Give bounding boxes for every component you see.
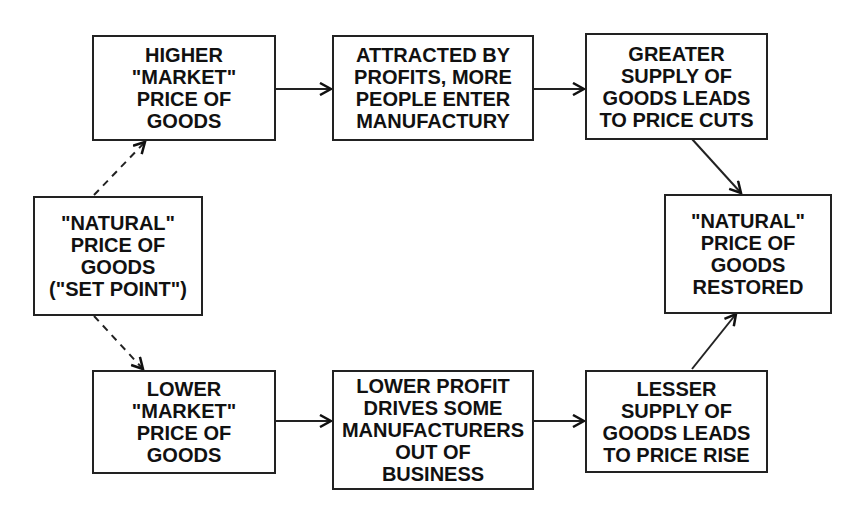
node-line: PROFITS, MORE xyxy=(354,66,512,88)
node-line: "NATURAL" xyxy=(61,212,175,234)
node-line: "NATURAL" xyxy=(691,210,805,232)
node-line: GOODS xyxy=(147,444,221,466)
node-attracted-by-profits: ATTRACTED BY PROFITS, MORE PEOPLE ENTER … xyxy=(332,35,534,141)
node-line: HIGHER xyxy=(145,44,223,66)
node-line: LESSER xyxy=(636,378,716,400)
node-line: LOWER xyxy=(147,378,221,400)
node-line: PRICE OF xyxy=(71,234,165,256)
node-line: PRICE OF xyxy=(137,88,231,110)
node-line: GOODS LEADS xyxy=(603,422,751,444)
node-higher-market-price: HIGHER "MARKET" PRICE OF GOODS xyxy=(92,35,276,141)
node-lesser-supply: LESSER SUPPLY OF GOODS LEADS TO PRICE RI… xyxy=(585,370,768,473)
node-line: ("SET POINT") xyxy=(49,278,187,300)
node-line: "MARKET" xyxy=(132,66,237,88)
node-line: SUPPLY OF xyxy=(621,65,732,87)
arrow-lesser-to-restored xyxy=(692,314,736,369)
node-line: BUSINESS xyxy=(382,463,484,485)
node-line: PRICE OF xyxy=(137,422,231,444)
arrow-natural-to-higher xyxy=(94,142,145,195)
node-line: SUPPLY OF xyxy=(621,400,732,422)
node-line: PRICE OF xyxy=(701,232,795,254)
arrow-greater-to-restored xyxy=(692,139,741,193)
node-greater-supply: GREATER SUPPLY OF GOODS LEADS TO PRICE C… xyxy=(585,33,768,140)
node-line: OUT OF xyxy=(395,441,471,463)
node-natural-price-set-point: "NATURAL" PRICE OF GOODS ("SET POINT") xyxy=(33,196,203,316)
node-line: "MARKET" xyxy=(132,400,237,422)
node-line: GOODS xyxy=(81,256,155,278)
node-lower-profit: LOWER PROFIT DRIVES SOME MANUFACTURERS O… xyxy=(332,370,534,490)
node-line: MANUFACTURERS xyxy=(342,419,524,441)
node-line: TO PRICE CUTS xyxy=(599,109,753,131)
node-line: LOWER PROFIT xyxy=(356,375,509,397)
node-line: ATTRACTED BY xyxy=(356,44,510,66)
node-line: GOODS xyxy=(711,254,785,276)
node-line: PEOPLE ENTER xyxy=(356,88,510,110)
node-lower-market-price: LOWER "MARKET" PRICE OF GOODS xyxy=(92,370,276,474)
node-natural-price-restored: "NATURAL" PRICE OF GOODS RESTORED xyxy=(664,194,832,314)
node-line: GOODS LEADS xyxy=(603,87,751,109)
arrow-natural-to-lower xyxy=(94,316,143,369)
node-line: GREATER xyxy=(628,43,724,65)
node-line: RESTORED xyxy=(693,276,804,298)
node-line: MANUFACTURY xyxy=(356,110,510,132)
node-line: TO PRICE RISE xyxy=(603,444,749,466)
node-line: DRIVES SOME xyxy=(364,397,503,419)
node-line: GOODS xyxy=(147,110,221,132)
